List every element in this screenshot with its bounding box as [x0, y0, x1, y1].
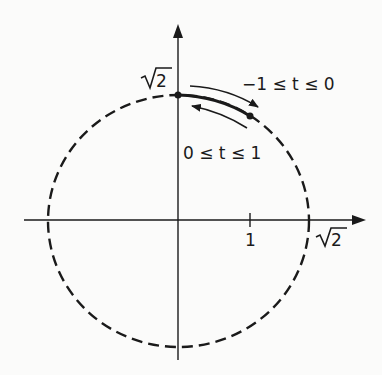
lower-range-label: 0 ≤ t ≤ 1 [183, 143, 261, 163]
upper-range-label: −1 ≤ t ≤ 0 [242, 74, 335, 94]
solid-arc [178, 95, 250, 116]
y-sqrt2-value: 2 [156, 71, 167, 91]
y-axis [173, 24, 183, 360]
x-sqrt2-value: 2 [331, 230, 342, 250]
x-axis-arrow-icon [352, 215, 366, 225]
start-point [175, 92, 182, 99]
x-sqrt2-label: 2 [316, 228, 347, 250]
y-sqrt2-label: 2 [141, 68, 172, 91]
end-point [247, 113, 254, 120]
y-axis-arrow-icon [173, 24, 183, 38]
diagram-canvas: 2 2 1 −1 ≤ t ≤ 0 0 ≤ t ≤ 1 [0, 0, 382, 375]
x-axis [24, 215, 366, 225]
x-tick-1-label: 1 [245, 230, 256, 250]
